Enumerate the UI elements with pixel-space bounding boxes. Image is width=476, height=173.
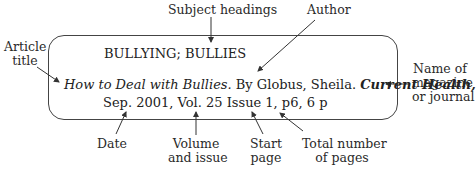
citation-line-2: How to Deal with Bullies. By Globus, She… — [64, 77, 476, 93]
label-date: Date — [97, 137, 127, 151]
subject-headings-text: BULLYING; BULLIES — [104, 46, 246, 62]
label-volume-issue: Volume and issue — [168, 137, 224, 165]
arrow-total-pages — [280, 113, 303, 131]
label-subject-headings: Subject headings — [168, 3, 277, 17]
label-total-pages: Total number of pages — [302, 137, 382, 165]
label-article-title: Article title — [4, 40, 46, 68]
journal-text: Current Health, — [360, 77, 476, 92]
author-text: By Globus, Sheila. — [232, 77, 360, 92]
arrow-author — [258, 20, 315, 71]
arrow-title — [37, 67, 59, 82]
citation-line-3: Sep. 2001, Vol. 25 Issue 1, p6, 6 p — [103, 95, 327, 111]
article-title-text: How to Deal with Bullies. — [64, 77, 232, 92]
arrow-date — [116, 112, 126, 134]
label-start-page: Start page — [250, 137, 282, 165]
label-author: Author — [307, 3, 351, 17]
arrow-start-page — [252, 112, 263, 134]
